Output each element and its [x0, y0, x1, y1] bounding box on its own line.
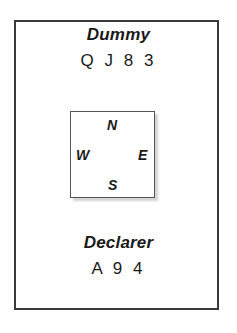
compass-south: S [108, 177, 117, 193]
compass-table: N W E S [70, 111, 155, 198]
declarer-cards: A 9 4 [0, 259, 237, 279]
dummy-label: Dummy [0, 25, 237, 45]
compass-east: E [138, 147, 147, 163]
dummy-cards: Q J 8 3 [0, 51, 237, 71]
declarer-label: Declarer [0, 233, 237, 253]
compass-north: N [107, 117, 117, 133]
compass-west: W [76, 147, 89, 163]
